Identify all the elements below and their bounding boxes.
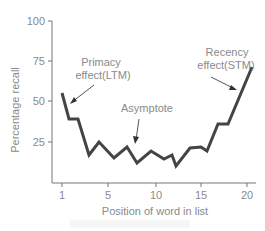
x-tick-15: 15 xyxy=(195,189,207,201)
y-tick-50: 50 xyxy=(33,95,45,107)
x-ticks xyxy=(62,183,247,187)
x-tick-1: 1 xyxy=(59,189,65,201)
recency-label-line2: effect(STM) xyxy=(197,59,254,71)
y-axis-title: Percentage recall xyxy=(9,67,21,153)
y-tick-25: 25 xyxy=(33,136,45,148)
recency-label-line1: Recency xyxy=(206,46,249,58)
asymptote-arrow-icon xyxy=(133,119,139,144)
x-tick-20: 20 xyxy=(241,189,253,201)
primacy-arrow-icon xyxy=(70,85,94,104)
asymptote-label: Asymptote xyxy=(121,102,173,114)
recall-line xyxy=(62,67,252,166)
serial-position-chart: 100 75 50 25 1 5 10 15 20 Position of wo… xyxy=(0,0,265,231)
faint-caption xyxy=(70,220,190,228)
y-ticks xyxy=(48,21,52,142)
y-tick-75: 75 xyxy=(33,55,45,67)
x-tick-10: 10 xyxy=(150,189,162,201)
primacy-label-line2: effect(LTM) xyxy=(75,69,130,81)
primacy-label-line1: Primacy xyxy=(81,56,121,68)
recency-arrow-icon xyxy=(211,77,237,90)
y-tick-100: 100 xyxy=(27,15,45,27)
x-axis-title: Position of word in list xyxy=(102,205,208,217)
x-tick-5: 5 xyxy=(105,189,111,201)
